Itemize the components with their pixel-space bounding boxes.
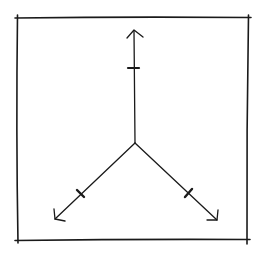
tripod-diagram	[0, 0, 262, 255]
axis-lower-left	[54, 143, 135, 221]
axis-up	[127, 30, 143, 143]
axis-lower-right	[135, 143, 218, 220]
arrowhead-up-icon	[127, 30, 143, 38]
tick-lower-left	[77, 190, 84, 197]
diagram-canvas	[0, 0, 262, 255]
frame	[15, 15, 251, 244]
